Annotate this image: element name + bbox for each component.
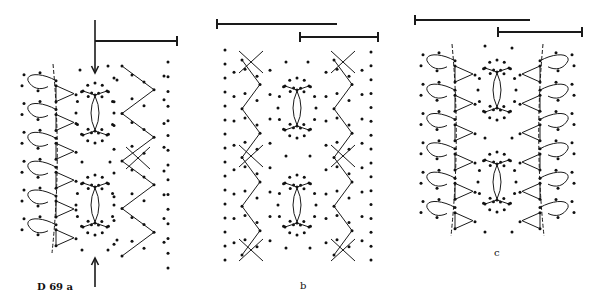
pinhole [325, 95, 328, 98]
pinhole [336, 116, 339, 119]
pinhole [131, 121, 134, 124]
pinhole [269, 117, 272, 120]
pinhole [422, 171, 425, 174]
pinhole [131, 97, 134, 100]
picot-loop [540, 84, 568, 98]
pinhole [361, 239, 364, 242]
pinhole [75, 204, 78, 207]
oval-motif [277, 174, 318, 237]
pinhole [111, 192, 114, 195]
pinhole [23, 188, 26, 191]
pinhole [348, 221, 351, 224]
pinhole [348, 75, 351, 78]
pin-column [167, 61, 170, 270]
pinhole [515, 181, 518, 184]
pinhole [511, 137, 514, 140]
pinhole [55, 215, 58, 218]
picot-loop [427, 143, 455, 157]
pinhole [82, 226, 85, 229]
pinhole [454, 110, 457, 113]
pinhole [370, 259, 373, 262]
pinhole [224, 161, 227, 164]
picot-triangle [56, 172, 74, 188]
zigzag-band [325, 51, 364, 261]
pinhole [143, 247, 146, 250]
pinhole [233, 168, 236, 171]
pinhole [519, 103, 522, 106]
pinhole [113, 76, 116, 79]
pinhole [454, 198, 457, 201]
pinhole [288, 79, 291, 82]
pinhole [370, 245, 373, 248]
pinhole [153, 183, 156, 186]
pinhole [502, 164, 505, 167]
pinhole [573, 211, 576, 214]
pinhole [55, 129, 58, 132]
pinhole [113, 100, 116, 103]
pinhole [539, 182, 542, 185]
pinhole [370, 161, 373, 164]
pinhole [348, 197, 351, 200]
pinhole [555, 198, 558, 201]
pinhole [224, 105, 227, 108]
pinhole [573, 64, 576, 67]
zigzag-segment [242, 133, 260, 157]
pinhole [256, 99, 259, 102]
zigzag-band [233, 51, 272, 261]
pinhole [167, 193, 170, 196]
pinhole [224, 231, 227, 234]
picot-triangle [522, 125, 540, 141]
pinhole [244, 116, 247, 119]
picot-triangle [522, 183, 540, 199]
pinhole [308, 85, 311, 88]
pinhole [333, 59, 336, 62]
pinhole [513, 192, 516, 195]
pinhole [488, 208, 491, 211]
pinhole [348, 172, 351, 175]
spindle-shape [493, 73, 501, 107]
pinhole [75, 237, 78, 240]
pinhole [539, 94, 542, 97]
pinhole [571, 53, 574, 56]
pinhole [438, 169, 441, 172]
pinhole [224, 147, 227, 150]
pinhole [557, 128, 560, 131]
pinhole [107, 249, 110, 252]
pinhole [513, 100, 516, 103]
pinhole [131, 192, 134, 195]
pinhole [488, 116, 491, 119]
picot-loop [427, 55, 455, 69]
pinhole [259, 132, 262, 135]
zigzag-segment [334, 60, 352, 84]
pinhole [333, 205, 336, 208]
pinhole [241, 59, 244, 62]
pinhole [519, 191, 522, 194]
spindle-shape [493, 165, 501, 199]
panel-c-diagram [415, 15, 582, 236]
pinhole [55, 158, 58, 161]
pinhole [484, 45, 487, 48]
pinhole [454, 147, 457, 150]
pinhole [571, 112, 574, 115]
pinhole [167, 149, 170, 152]
spindle-shape [293, 91, 301, 125]
pinhole [303, 231, 306, 234]
pinhole [94, 234, 97, 237]
pinhole [81, 249, 84, 252]
pinhole [87, 128, 90, 131]
pinhole [325, 144, 328, 147]
pinhole [21, 199, 24, 202]
pinhole [454, 211, 457, 214]
pinhole [361, 93, 364, 96]
pinhole [55, 199, 58, 202]
pinhole [370, 51, 373, 54]
pinhole [454, 169, 457, 172]
pinhole [422, 53, 425, 56]
pinhole [539, 153, 542, 156]
pinhole [163, 74, 166, 77]
pinhole [370, 64, 373, 67]
pinhole [163, 146, 166, 149]
pinhole [325, 217, 328, 220]
pinhole [87, 95, 90, 98]
pinhole [313, 192, 316, 195]
